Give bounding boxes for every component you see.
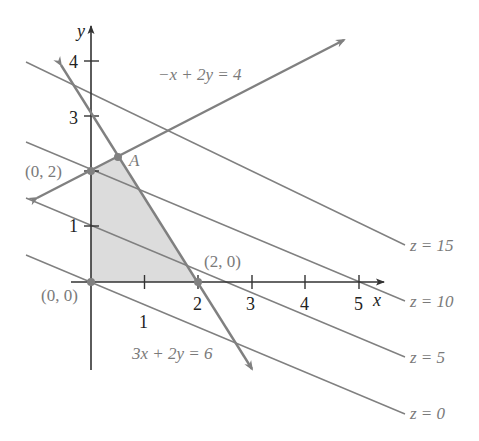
lp-diagram: 1 2 3 4 5 1 3 4 x y −x + 2y = 4 3x + 2y … — [0, 0, 479, 441]
vertex-label-A: A — [128, 151, 140, 170]
x-tick-label-1: 1 — [139, 312, 148, 332]
constraint-line-neg-x-plus-2y-eq-4 — [37, 40, 344, 198]
y-axis-label: y — [75, 21, 85, 41]
vertex-label-0-2: (0, 2) — [25, 162, 62, 181]
x-tick-label-3: 3 — [246, 294, 255, 314]
vertex-label-origin: (0, 0) — [41, 286, 78, 305]
vertex-2-0-dot — [194, 278, 202, 286]
level-line-z0 — [26, 255, 405, 414]
level-line-z15 — [26, 62, 405, 245]
constraint-line-3x-plus-2y-eq-6 — [61, 65, 252, 369]
vertex-label-2-0: (2, 0) — [204, 252, 241, 271]
constraint-label-2: 3x + 2y = 6 — [131, 344, 213, 363]
x-tick-label-5: 5 — [354, 294, 363, 314]
x-tick-label-2: 2 — [193, 294, 202, 314]
level-label-z5: z = 5 — [409, 348, 445, 367]
y-tick-label-3: 3 — [69, 108, 78, 128]
level-label-z10: z = 10 — [409, 292, 454, 311]
vertex-A-dot — [114, 153, 122, 161]
x-axis-label: x — [372, 290, 381, 310]
level-label-z0: z = 0 — [409, 404, 446, 423]
y-tick-label-1: 1 — [69, 216, 78, 236]
vertex-0-2-dot — [87, 167, 95, 175]
level-label-z15: z = 15 — [409, 236, 454, 255]
x-tick-label-4: 4 — [300, 294, 309, 314]
constraint-label-1: −x + 2y = 4 — [158, 65, 242, 84]
y-tick-label-4: 4 — [69, 52, 78, 72]
vertex-origin-dot — [87, 278, 95, 286]
